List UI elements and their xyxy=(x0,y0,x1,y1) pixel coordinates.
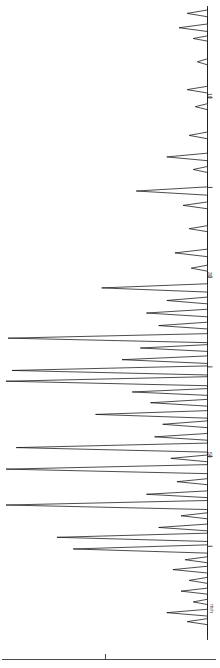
axis-tick-group xyxy=(208,98,213,547)
axis-title-min: min xyxy=(209,604,215,613)
chromatogram-trace xyxy=(6,8,207,636)
axis-tick-label: 50 xyxy=(207,452,212,458)
chromatogram-figure: 103050 min xyxy=(0,0,220,668)
axis-tick-label: 10 xyxy=(207,93,212,99)
axis-tick-label: 30 xyxy=(207,272,212,278)
trace-group xyxy=(6,8,207,636)
axis-group xyxy=(2,6,216,660)
chromatogram-plot xyxy=(0,0,220,668)
